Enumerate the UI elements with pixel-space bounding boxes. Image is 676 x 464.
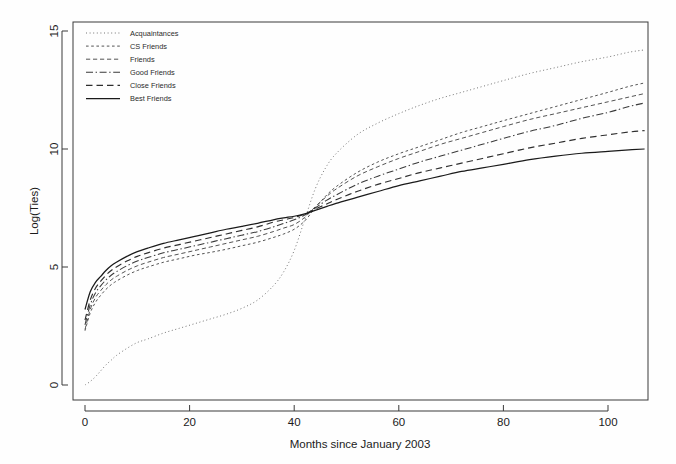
chart-figure: 051015 020406080100 Log(Ties) Months sin… — [0, 0, 676, 464]
x-tick-label: 100 — [598, 416, 617, 428]
y-axis-title: Log(Ties) — [28, 187, 40, 235]
series-line-cs-friends — [85, 83, 645, 331]
legend-label-acquaintances: Acquaintances — [130, 29, 179, 38]
x-axis — [85, 405, 608, 411]
y-tick-label: 5 — [48, 264, 60, 270]
x-tick-label: 20 — [183, 416, 196, 428]
legend-label-close-friends: Close Friends — [130, 81, 176, 90]
series-line-close-friends — [85, 131, 645, 321]
series-line-good-friends — [85, 103, 645, 325]
x-tick-label: 40 — [288, 416, 301, 428]
y-tick-label: 10 — [48, 143, 60, 156]
series-line-best-friends — [85, 149, 645, 309]
y-tick-labels: 051015 — [48, 25, 60, 389]
legend-label-best-friends: Best Friends — [130, 94, 172, 103]
x-axis-title: Months since January 2003 — [290, 438, 431, 450]
plot-frame — [73, 22, 648, 400]
x-tick-label: 60 — [392, 416, 405, 428]
legend-label-good-friends: Good Friends — [130, 68, 175, 77]
series-line-friends — [85, 94, 645, 330]
x-tick-label: 80 — [497, 416, 510, 428]
line-chart: 051015 020406080100 Log(Ties) Months sin… — [0, 0, 676, 464]
y-tick-label: 15 — [48, 25, 60, 38]
y-tick-label: 0 — [48, 382, 60, 388]
chart-legend: AcquaintancesCS FriendsFriendsGood Frien… — [86, 29, 179, 104]
legend-label-friends: Friends — [130, 55, 155, 64]
legend-label-cs-friends: CS Friends — [130, 42, 167, 51]
y-axis — [62, 31, 68, 385]
x-axis-line — [85, 405, 608, 411]
x-tick-label: 0 — [82, 416, 88, 428]
x-tick-labels: 020406080100 — [82, 416, 618, 428]
y-axis-line — [62, 31, 68, 385]
